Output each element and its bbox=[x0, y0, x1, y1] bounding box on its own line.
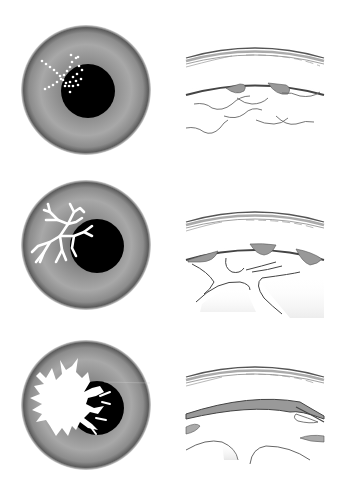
eye-front-view-stage-1 bbox=[21, 25, 151, 155]
cross-section-stage-2 bbox=[186, 212, 324, 318]
eye-front-view-stage-3 bbox=[21, 340, 151, 470]
cross-section-stage-3 bbox=[186, 367, 324, 464]
cross-section-stage-1 bbox=[186, 48, 324, 133]
pupil bbox=[70, 219, 124, 273]
diagram-svg bbox=[0, 0, 342, 485]
eye-front-view-stage-2 bbox=[21, 180, 151, 310]
pupil bbox=[61, 64, 115, 118]
nerve-fibers bbox=[186, 92, 320, 133]
diagram-canvas bbox=[0, 0, 342, 485]
